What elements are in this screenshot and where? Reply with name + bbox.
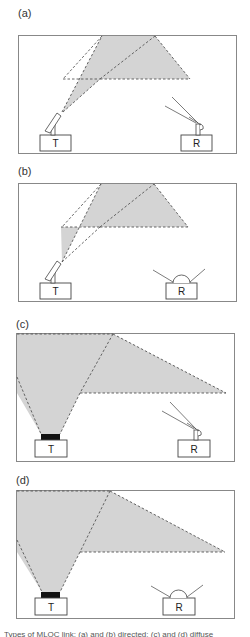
receiver-label: R — [178, 286, 185, 297]
figure-caption: Types of MLOC link: (a) and (b) directed… — [4, 627, 250, 637]
transmitter-d: T — [35, 592, 67, 615]
panel-a: T R — [19, 36, 237, 154]
receiver-label: R — [175, 602, 182, 613]
receiver-a: R — [165, 97, 212, 151]
transmitter-label: T — [52, 286, 58, 297]
transmitter-c: T — [35, 434, 67, 457]
beam-area-b — [61, 184, 188, 262]
transmitter-a: T — [40, 113, 71, 151]
panel-b: T R — [19, 184, 237, 302]
receiver-label: R — [190, 444, 197, 455]
diffuse-emitter — [41, 434, 60, 440]
receiver-c: R — [162, 402, 210, 457]
receiver-d: R — [151, 585, 203, 615]
figure-canvas: T R T — [0, 0, 250, 637]
beam-area-a — [62, 36, 190, 112]
transmitter-label: T — [48, 602, 54, 613]
transmitter-label: T — [48, 444, 54, 455]
transmitter-label: T — [52, 138, 58, 149]
receiver-b: R — [153, 269, 205, 299]
diffuse-emitter — [41, 592, 60, 598]
receiver-label: R — [193, 138, 200, 149]
panel-c: T R — [17, 334, 235, 462]
beam-area-c — [17, 334, 226, 434]
transmitter-b: T — [40, 261, 71, 299]
panel-d: T R — [17, 491, 235, 619]
beam-area-d — [17, 491, 225, 592]
